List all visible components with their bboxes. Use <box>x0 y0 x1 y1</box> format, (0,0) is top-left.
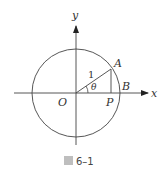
radius-label: 1 <box>88 69 94 80</box>
x-axis-label: x <box>151 87 158 100</box>
caption-number: 6–1 <box>76 156 94 167</box>
y-axis-label: y <box>71 9 79 22</box>
point-A-label: A <box>113 57 122 70</box>
point-P-label: P <box>105 96 114 109</box>
angle-arc <box>86 86 88 93</box>
angle-label: θ <box>91 82 97 92</box>
point-B-label: B <box>121 80 130 93</box>
caption-glyph-icon <box>64 156 73 165</box>
origin-label: O <box>58 96 67 109</box>
unit-circle-diagram: y x O A B P 1 θ 6–1 <box>0 0 167 174</box>
